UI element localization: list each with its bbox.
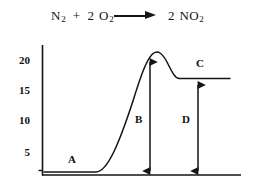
annotation-label-c: C — [196, 57, 204, 69]
annotation-label-a: A — [68, 153, 76, 165]
annotation-label-d: D — [182, 113, 190, 125]
energy-diagram-figure: N2 + 2 O2 2 NO2 20 15 10 5 — [0, 0, 255, 186]
annotation-label-b: B — [135, 113, 142, 125]
energy-profile-plot — [0, 0, 255, 186]
